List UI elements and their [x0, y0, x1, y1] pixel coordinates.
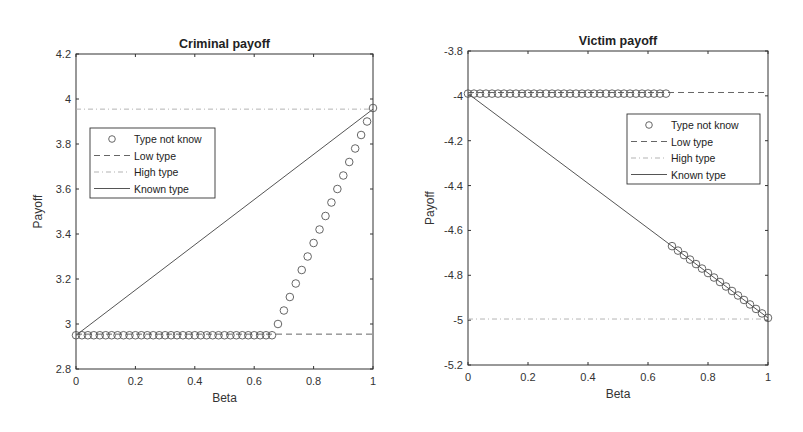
y-tick-label: 4.2: [56, 48, 71, 60]
x-axis-label: Beta: [606, 387, 631, 401]
legend: Type not knowLow typeHigh typeKnown type: [627, 114, 760, 184]
y-tick-label: -4.8: [444, 269, 463, 281]
y-tick-label: -3.8: [444, 45, 463, 57]
chart-title: Victim payoff: [579, 34, 658, 48]
x-tick-label: 0.4: [580, 371, 595, 383]
y-tick-label: 3.6: [56, 183, 71, 195]
figure-canvas: 00.20.40.60.812.833.23.43.63.844.2Crimin…: [0, 0, 803, 432]
x-tick-label: 0.8: [306, 375, 321, 387]
x-tick-label: 0: [73, 375, 79, 387]
y-axis-label: Payoff: [31, 194, 45, 228]
legend-label: High type: [671, 152, 716, 164]
x-axis-label: Beta: [212, 391, 237, 405]
y-tick-label: -4: [453, 90, 463, 102]
y-tick-label: -5.2: [444, 359, 463, 371]
y-tick-label: -4.4: [444, 180, 463, 192]
legend-label: Known type: [671, 169, 726, 181]
y-tick-label: 2.8: [56, 363, 71, 375]
x-tick-label: 0.4: [187, 375, 202, 387]
x-tick-label: 1: [370, 375, 376, 387]
x-tick-label: 1: [765, 371, 771, 383]
legend-label: Low type: [671, 136, 713, 148]
plot-area: [468, 51, 768, 365]
x-tick-label: 0.6: [640, 371, 655, 383]
legend-label: Type not know: [134, 133, 202, 145]
legend-label: Type not know: [671, 119, 739, 131]
x-tick-label: 0.8: [700, 371, 715, 383]
y-tick-label: 3.8: [56, 138, 71, 150]
x-tick-label: 0: [465, 371, 471, 383]
chart-left: 00.20.40.60.812.833.23.43.63.844.2Crimin…: [31, 37, 377, 405]
y-tick-label: -4.6: [444, 224, 463, 236]
chart-right: 00.20.40.60.81-5.2-5-4.8-4.6-4.4-4.2-4-3…: [423, 34, 772, 401]
x-tick-label: 0.6: [247, 375, 262, 387]
y-axis-label: Payoff: [423, 190, 437, 224]
x-tick-label: 0.2: [520, 371, 535, 383]
legend-label: High type: [134, 166, 179, 178]
y-tick-label: -4.2: [444, 135, 463, 147]
legend: Type not knowLow typeHigh typeKnown type: [90, 128, 215, 198]
legend-label: Low type: [134, 150, 176, 162]
legend-label: Known type: [134, 183, 189, 195]
plot-area: [76, 54, 373, 369]
x-tick-label: 0.2: [128, 375, 143, 387]
chart-title: Criminal payoff: [179, 37, 271, 51]
y-tick-label: 3: [65, 318, 71, 330]
y-tick-label: 4: [65, 93, 71, 105]
y-tick-label: -5: [453, 314, 463, 326]
y-tick-label: 3.4: [56, 228, 71, 240]
y-tick-label: 3.2: [56, 273, 71, 285]
